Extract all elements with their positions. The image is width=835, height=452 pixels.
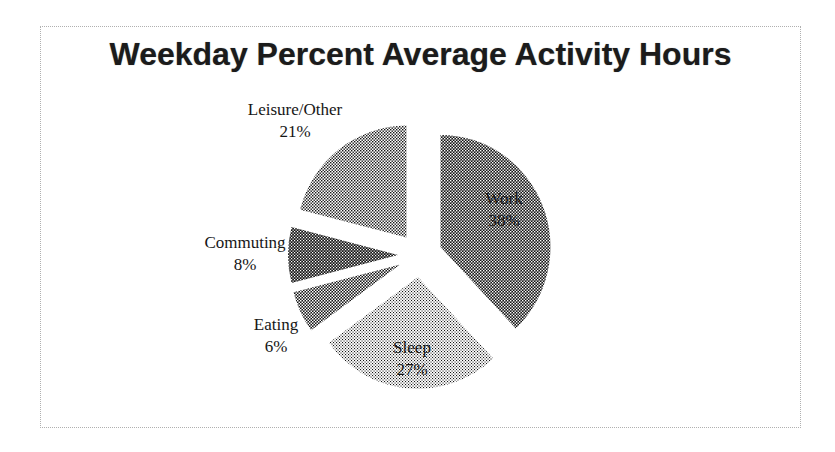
pie-slice-leisure-other — [300, 126, 407, 238]
slice-label-leisure-other: Leisure/Other21% — [248, 100, 343, 141]
pie-chart-svg: Work38%Sleep27%Eating6%Commuting8%Leisur… — [0, 0, 835, 452]
slice-label-eating: Eating6% — [254, 315, 299, 356]
pie-slice-work — [441, 135, 551, 329]
slice-label-commuting: Commuting8% — [204, 233, 286, 274]
chart-canvas: Weekday Percent Average Activity Hours W… — [0, 0, 835, 452]
